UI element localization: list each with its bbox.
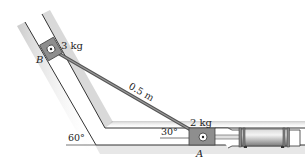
point-b-label: B xyxy=(35,54,43,65)
angle-30-label: 30° xyxy=(161,126,178,137)
mass-a-label: 2 kg xyxy=(190,117,213,128)
mass-b-label: 3 kg xyxy=(61,40,84,51)
mechanism-diagram: 3 kg B 0.5 m 2 kg A 60° 30° xyxy=(0,0,305,165)
point-a-label: A xyxy=(195,148,203,159)
slider-block-a xyxy=(189,128,215,145)
hydraulic-cylinder xyxy=(239,128,290,148)
angle-60-label: 60° xyxy=(68,132,85,143)
inclined-guide xyxy=(25,14,105,145)
